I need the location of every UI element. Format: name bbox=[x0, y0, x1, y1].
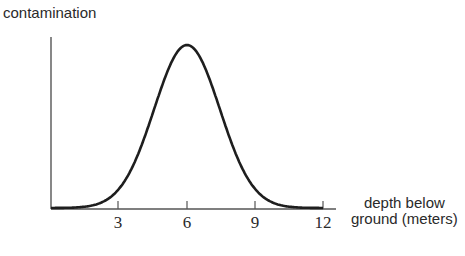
x-tick-label-6: 6 bbox=[183, 213, 192, 233]
x-tick-label-9: 9 bbox=[251, 213, 260, 233]
x-tick-label-12: 12 bbox=[315, 213, 332, 233]
x-axis-label-line1: depth below bbox=[351, 195, 458, 211]
x-axis-label: depth below ground (meters) bbox=[351, 195, 458, 227]
x-axis-label-line2: ground (meters) bbox=[351, 211, 458, 227]
x-tick-label-3: 3 bbox=[114, 213, 123, 233]
contamination-curve bbox=[51, 45, 323, 208]
